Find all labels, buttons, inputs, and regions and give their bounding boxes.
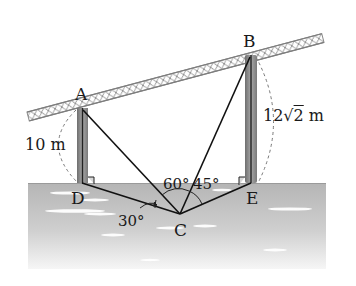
label-angle-30: 30° — [118, 214, 145, 229]
label-angle-60: 60° — [163, 177, 190, 192]
right-angle-D — [88, 177, 94, 184]
label-point-D: D — [71, 190, 85, 207]
label-angle-45: 45° — [193, 177, 220, 192]
label-point-A: A — [75, 86, 87, 103]
tower-AD — [77, 108, 88, 183]
label-length-AD: 10 m — [25, 137, 66, 153]
length-BE-unit: m — [309, 106, 324, 125]
length-BE-radicand: 2 — [294, 106, 304, 125]
label-point-C: C — [174, 222, 187, 239]
label-point-B: B — [243, 33, 256, 50]
label-length-BE: 12√2 m — [263, 108, 324, 124]
tower-BE — [245, 55, 257, 183]
diagram-stage: A B C D E 10 m 12√2 m 60° 45° 30° — [0, 0, 356, 286]
label-point-E: E — [246, 190, 258, 207]
length-BE-coefficient: 12 — [263, 106, 283, 125]
